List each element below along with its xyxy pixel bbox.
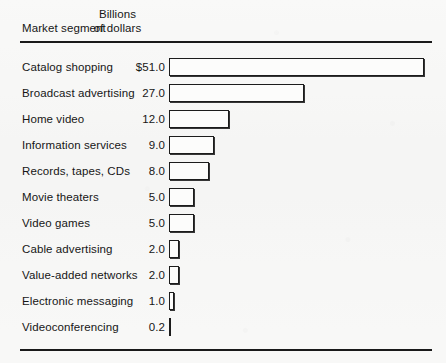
bar-track: [169, 266, 179, 284]
row-value-label: 5.0: [55, 191, 165, 203]
bar-track: [169, 136, 214, 154]
row-value-label: 8.0: [55, 165, 165, 177]
footer-rule: [20, 349, 432, 351]
chart-row: Records, tapes, CDs8.0: [0, 160, 446, 186]
row-value-label: 0.2: [55, 321, 165, 333]
bar-track: [169, 188, 194, 206]
bar: [169, 162, 209, 180]
bar: [169, 136, 214, 154]
bar-track: [169, 318, 171, 336]
bar: [169, 292, 174, 310]
chart-row: Electronic messaging1.0: [0, 290, 446, 316]
column-header-billions-of-dollars: Billions of dollars: [60, 7, 175, 35]
column-header-line-2: of dollars: [60, 21, 175, 35]
bar: [169, 214, 194, 232]
bar-track: [169, 110, 229, 128]
chart-row: Cable advertising2.0: [0, 238, 446, 264]
bar: [169, 110, 229, 128]
chart-row: Movie theaters5.0: [0, 186, 446, 212]
row-value-label: 5.0: [55, 217, 165, 229]
row-value-label: 27.0: [55, 87, 165, 99]
bar-track: [169, 292, 174, 310]
bar-track: [169, 214, 194, 232]
bar-chart-figure: Market segment Billions of dollars Catal…: [0, 0, 446, 363]
bar-track: [169, 162, 209, 180]
bar: [169, 240, 179, 258]
chart-rows: Catalog shopping$51.0Broadcast advertisi…: [0, 56, 446, 342]
chart-row: Video games5.0: [0, 212, 446, 238]
header-rule: [20, 41, 432, 43]
bar: [169, 266, 179, 284]
column-header-line-1: Billions: [60, 7, 175, 21]
chart-row: Home video12.0: [0, 108, 446, 134]
chart-row: Value-added networks2.0: [0, 264, 446, 290]
row-value-label: 2.0: [55, 243, 165, 255]
row-value-label: 1.0: [55, 295, 165, 307]
bar: [169, 58, 424, 76]
chart-row: Broadcast advertising27.0: [0, 82, 446, 108]
chart-row: Information services9.0: [0, 134, 446, 160]
bar-track: [169, 84, 304, 102]
chart-row: Catalog shopping$51.0: [0, 56, 446, 82]
chart-row: Videoconferencing0.2: [0, 316, 446, 342]
row-value-label: $51.0: [55, 61, 165, 73]
bar-track: [169, 240, 179, 258]
bar: [169, 318, 171, 336]
row-value-label: 9.0: [55, 139, 165, 151]
row-value-label: 2.0: [55, 269, 165, 281]
bar-track: [169, 58, 424, 76]
bar: [169, 188, 194, 206]
row-value-label: 12.0: [55, 113, 165, 125]
bar: [169, 84, 304, 102]
